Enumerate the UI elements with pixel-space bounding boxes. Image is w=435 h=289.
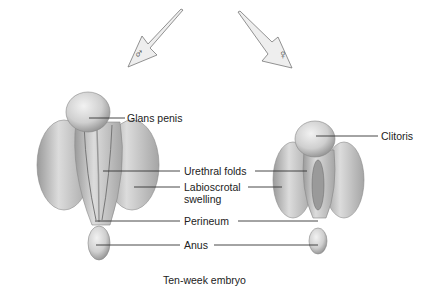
figure-caption: Ten-week embryo [163, 274, 246, 286]
female-symbol-icon: ♀ [278, 47, 288, 62]
label-swelling: swelling [184, 193, 221, 205]
label-labioscrotal: Labioscrotal [184, 181, 241, 193]
label-clitoris: Clitoris [381, 130, 413, 142]
diagram-canvas [0, 0, 435, 289]
label-anus: Anus [184, 239, 208, 251]
male-symbol-icon: ♂ [134, 46, 144, 61]
label-glans-penis: Glans penis [127, 112, 182, 124]
label-perineum: Perineum [184, 215, 229, 227]
label-urethral-folds: Urethral folds [184, 165, 246, 177]
female-genitalia-illustration [273, 121, 364, 254]
